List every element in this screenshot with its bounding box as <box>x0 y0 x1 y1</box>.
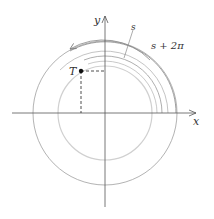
point-t <box>79 69 83 73</box>
arc-outer-arrow <box>70 40 150 60</box>
y-axis-label: y <box>93 14 101 27</box>
arc-s-plus-2pi-label: s + 2π <box>151 40 184 51</box>
arc-s-3 <box>60 51 168 113</box>
x-axis-label: x <box>193 115 200 128</box>
arc-s-label: s <box>131 22 136 32</box>
unit-circle-diagram: y x T s s + 2π <box>0 0 214 219</box>
arc-s-plus-2pi <box>70 42 176 113</box>
